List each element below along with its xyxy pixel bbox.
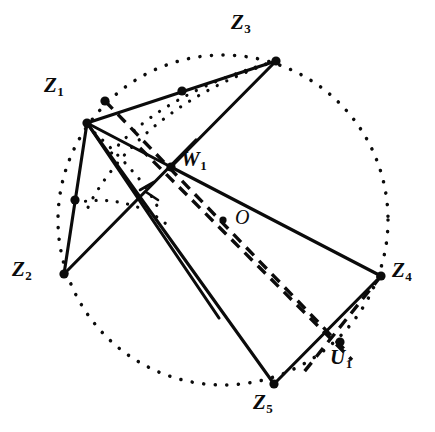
label-z2-base: Z bbox=[12, 257, 25, 281]
geometry-canvas bbox=[0, 0, 435, 432]
tick-on-z1-z5 bbox=[146, 192, 158, 200]
label-z5-base: Z bbox=[253, 390, 266, 414]
seg-w1-z4 bbox=[171, 167, 381, 276]
label-w1-subscript: 1 bbox=[200, 158, 207, 173]
point-dot-z3 bbox=[271, 56, 280, 65]
label-o: O bbox=[235, 207, 249, 227]
label-u1-subscript: 1 bbox=[346, 356, 353, 371]
label-z1-subscript: 1 bbox=[57, 84, 64, 99]
point-dot-z5 bbox=[269, 379, 278, 388]
label-z3: Z3 bbox=[231, 12, 250, 33]
label-z1: Z1 bbox=[44, 75, 63, 96]
dotted-arcs-group bbox=[75, 61, 276, 224]
label-z3-base: Z bbox=[231, 10, 244, 34]
label-z4: Z4 bbox=[392, 260, 411, 281]
label-z5: Z5 bbox=[253, 392, 272, 413]
label-z1-base: Z bbox=[44, 73, 57, 97]
dot-near-z1 bbox=[100, 96, 109, 105]
point-dot-w1 bbox=[166, 162, 175, 171]
label-w1: W1 bbox=[181, 149, 206, 170]
point-dot-o bbox=[219, 216, 226, 223]
point-dot-z2 bbox=[59, 269, 68, 278]
label-z4-base: Z bbox=[392, 258, 405, 282]
geometry-figure: Z1Z2Z3Z4Z5W1OU1 bbox=[0, 0, 435, 432]
label-z5-subscript: 5 bbox=[266, 401, 273, 416]
point-dot-z4 bbox=[376, 271, 385, 280]
label-z2-subscript: 2 bbox=[25, 268, 32, 283]
label-u1: U1 bbox=[330, 347, 352, 368]
label-u1-base: U bbox=[330, 345, 345, 369]
tick-marks-group bbox=[140, 182, 158, 200]
point-dot-z1 bbox=[82, 118, 91, 127]
label-w1-base: W bbox=[181, 147, 200, 171]
label-z2: Z2 bbox=[12, 259, 31, 280]
dot-on-z1-z3 bbox=[177, 86, 186, 95]
label-o-base: O bbox=[235, 206, 249, 228]
dash-w1-u1 bbox=[140, 148, 352, 360]
label-z3-subscript: 3 bbox=[244, 21, 251, 36]
label-z4-subscript: 4 bbox=[405, 269, 412, 284]
dot-on-z1-z2 bbox=[70, 195, 79, 204]
seg-z1-w1 bbox=[87, 123, 171, 167]
